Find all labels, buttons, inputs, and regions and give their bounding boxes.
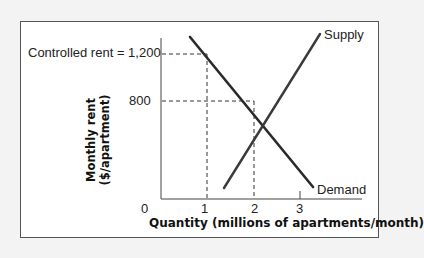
x-tick-2: 2	[251, 201, 258, 216]
y-tick-800: 800	[129, 93, 151, 108]
y-axis-title: Monthly rent ($/apartment)	[84, 94, 112, 185]
x-tick-0: 0	[141, 201, 148, 216]
demand-label: Demand	[317, 182, 366, 197]
y-axis-title-line2: ($/apartment)	[98, 94, 112, 185]
x-tick-3-label: 3	[296, 201, 303, 216]
supply-label: Supply	[324, 27, 364, 42]
y-axis-title-line1: Monthly rent	[84, 94, 98, 185]
x-axis-title: Quantity (millions of apartments/month)	[149, 216, 424, 230]
demand-curve	[190, 37, 313, 187]
x-tick-1: 1	[201, 201, 208, 216]
supply-curve	[224, 34, 320, 188]
controlled-rent-label: Controlled rent = 1,200	[28, 45, 161, 60]
